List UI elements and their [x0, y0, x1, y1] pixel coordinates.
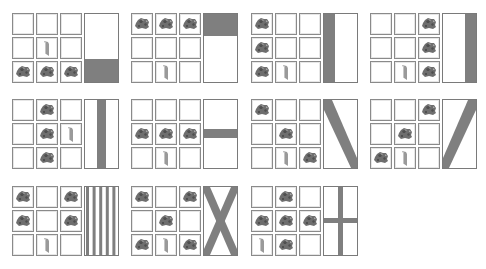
slot-empty	[12, 99, 34, 121]
ore-icon	[40, 104, 54, 115]
ore-icon	[183, 239, 197, 250]
slot-empty	[155, 186, 177, 208]
slot-empty	[131, 210, 153, 232]
slot-empty	[370, 123, 392, 145]
slot-dye	[275, 234, 297, 256]
slot-dye	[275, 186, 297, 208]
slot-dye	[60, 61, 82, 83]
slot-empty	[60, 37, 82, 59]
slot-empty	[299, 13, 321, 35]
slot-empty	[275, 37, 297, 59]
slot-dye	[418, 37, 440, 59]
slot-empty	[299, 61, 321, 83]
ore-icon	[135, 18, 149, 29]
slot-empty	[179, 99, 201, 121]
slot-empty	[394, 37, 416, 59]
ore-icon	[183, 128, 197, 139]
slot-dye	[155, 210, 177, 232]
recipe-paly	[12, 186, 120, 256]
slot-banner	[155, 61, 177, 83]
ore-icon	[374, 152, 388, 163]
slot-dye	[299, 210, 321, 232]
ore-icon	[422, 42, 436, 53]
slot-empty	[36, 13, 58, 35]
slot-empty	[12, 37, 34, 59]
banner-item-icon	[68, 127, 74, 142]
slot-empty	[131, 37, 153, 59]
slot-dye	[275, 210, 297, 232]
ore-icon	[159, 215, 173, 226]
result-banner-down-right-diagonal	[323, 99, 358, 169]
slot-dye	[275, 123, 297, 145]
slot-dye	[418, 61, 440, 83]
ore-icon	[64, 191, 78, 202]
result-banner-right-stripe	[442, 13, 477, 83]
ore-icon	[135, 128, 149, 139]
result-banner-left-stripe	[323, 13, 358, 83]
crafting-grid	[251, 186, 321, 256]
slot-dye	[179, 13, 201, 35]
slot-dye	[251, 13, 273, 35]
banner-item-icon	[163, 65, 169, 80]
ore-icon	[398, 128, 412, 139]
crafting-grid	[370, 99, 440, 169]
slot-dye	[179, 186, 201, 208]
slot-empty	[251, 147, 273, 169]
ore-icon	[16, 215, 30, 226]
crafting-grid	[370, 13, 440, 83]
ore-icon	[255, 66, 269, 77]
recipe-bend	[251, 99, 359, 169]
slot-empty	[12, 147, 34, 169]
slot-empty	[394, 99, 416, 121]
recipe-fess	[131, 99, 239, 169]
result-banner-bottom-stripe	[84, 13, 119, 83]
ore-icon	[135, 191, 149, 202]
slot-empty	[299, 37, 321, 59]
recipe-cross	[251, 186, 359, 256]
slot-empty	[12, 13, 34, 35]
ore-icon	[40, 152, 54, 163]
ore-icon	[422, 18, 436, 29]
crafting-grid	[12, 13, 82, 83]
slot-dye	[131, 123, 153, 145]
ore-icon	[135, 239, 149, 250]
slot-dye	[12, 186, 34, 208]
slot-dye	[251, 61, 273, 83]
slot-empty	[370, 37, 392, 59]
banner-item-icon	[44, 238, 50, 253]
ore-icon	[159, 128, 173, 139]
slot-empty	[155, 37, 177, 59]
crafting-grid	[131, 99, 201, 169]
banner-item-icon	[402, 65, 408, 80]
result-banner-center-stripe	[84, 99, 119, 169]
slot-dye	[12, 61, 34, 83]
recipe-base	[12, 13, 120, 83]
banner-item-icon	[402, 151, 408, 166]
slot-empty	[275, 99, 297, 121]
crafting-grid	[131, 13, 201, 83]
result-banner-small-stripes	[84, 186, 119, 256]
slot-dye	[251, 37, 273, 59]
slot-empty	[251, 123, 273, 145]
slot-dye	[12, 210, 34, 232]
banner-item-icon	[259, 238, 265, 253]
slot-empty	[12, 123, 34, 145]
banner-item-icon	[283, 151, 289, 166]
recipe-chief	[131, 13, 239, 83]
slot-empty	[179, 147, 201, 169]
banner-item-icon	[44, 41, 50, 56]
slot-dye	[370, 147, 392, 169]
slot-empty	[299, 234, 321, 256]
result-banner-down-left-diagonal	[442, 99, 477, 169]
slot-empty	[370, 99, 392, 121]
result-banner-square-cross	[323, 186, 358, 256]
slot-dye	[131, 13, 153, 35]
result-banner-top-stripe	[203, 13, 238, 83]
ore-icon	[40, 66, 54, 77]
ore-icon	[40, 128, 54, 139]
slot-banner	[394, 147, 416, 169]
recipe-pale-sinister	[370, 13, 478, 83]
slot-banner	[394, 61, 416, 83]
ore-icon	[64, 215, 78, 226]
slot-dye	[418, 99, 440, 121]
